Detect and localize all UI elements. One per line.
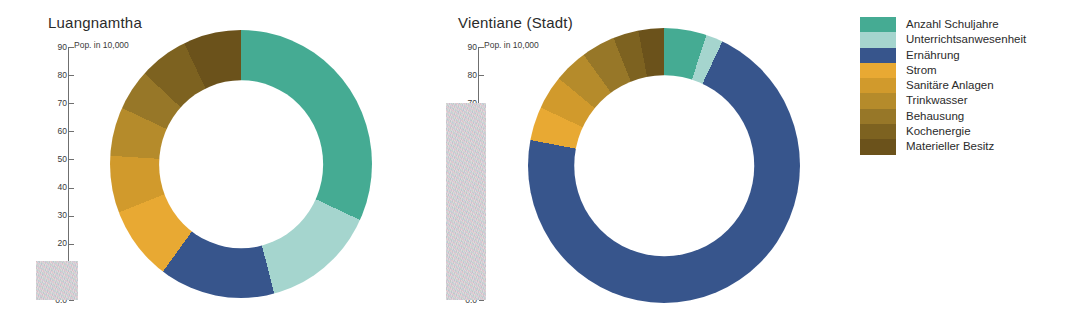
population-bar	[446, 103, 486, 300]
legend-swatch	[860, 32, 896, 47]
y-axis-tick-label: 90	[58, 42, 67, 52]
chart-title: Luangnamtha	[48, 14, 142, 31]
legend-swatch	[860, 124, 896, 139]
legend-swatch	[860, 63, 896, 78]
y-axis-unit-label: Pop. in 10,000	[484, 40, 539, 50]
y-axis-tick-label: 90	[468, 42, 477, 52]
legend-item-label: Behausung	[906, 109, 1026, 124]
legend-swatch	[860, 109, 896, 124]
y-axis-tick-label: 60	[58, 126, 67, 136]
legend-swatch	[860, 139, 896, 154]
y-axis-tick-mark	[69, 244, 74, 245]
legend-swatch	[860, 78, 896, 93]
donut-hole	[159, 80, 323, 248]
y-axis-tick-label: 30	[58, 210, 67, 220]
y-axis-unit-label: Pop. in 10,000	[74, 40, 129, 50]
chart-panel-vientiane: Vientiane (Stadt) Pop. in 10,000 9080706…	[430, 0, 760, 323]
legend-item-label: Unterrichtsanwesenheit	[906, 32, 1026, 47]
legend-item-label: Strom	[906, 63, 1026, 78]
legend-item-label: Trinkwasser	[906, 93, 1026, 108]
chart-title: Vientiane (Stadt)	[458, 14, 573, 31]
legend-item-label: Anzahl Schuljahre	[906, 17, 1026, 32]
legend-swatch	[860, 48, 896, 63]
y-axis-tick-label: 20	[58, 238, 67, 248]
y-axis-tick-mark	[69, 103, 74, 104]
legend-label-column: Anzahl SchuljahreUnterrichtsanwesenheitE…	[906, 17, 1026, 155]
legend-swatch	[860, 17, 896, 32]
donut-hole	[574, 75, 754, 257]
legend-swatch	[860, 93, 896, 108]
y-axis-tick-mark	[69, 216, 74, 217]
donut-chart-luangnamtha	[110, 30, 372, 298]
y-axis-tick-label: 80	[468, 70, 477, 80]
y-axis-tick-mark	[69, 159, 74, 160]
y-axis-tick-label: 80	[58, 70, 67, 80]
figure-canvas: Luangnamtha Pop. in 10,000 9080706050403…	[0, 0, 1068, 323]
population-bar	[36, 261, 78, 300]
y-axis-tick-mark	[479, 75, 484, 76]
y-axis-tick-label: 50	[58, 154, 67, 164]
y-axis-tick-mark	[479, 300, 484, 301]
legend-item-label: Materieller Besitz	[906, 139, 1026, 154]
y-axis-tick-label: 70	[58, 98, 67, 108]
donut-chart-vientiane	[528, 28, 800, 303]
y-axis-tick-mark	[69, 47, 74, 48]
y-axis-tick-mark	[479, 47, 484, 48]
y-axis-tick-mark	[69, 300, 74, 301]
y-axis-tick-label: 40	[58, 182, 67, 192]
y-axis-tick-mark	[69, 131, 74, 132]
chart-panel-luangnamtha: Luangnamtha Pop. in 10,000 9080706050403…	[0, 0, 430, 323]
y-axis-tick-mark	[69, 188, 74, 189]
legend-item-label: Kochenergie	[906, 124, 1026, 139]
legend-swatch-column	[860, 17, 896, 155]
legend-item-label: Ernährung	[906, 48, 1026, 63]
y-axis-tick-mark	[69, 75, 74, 76]
legend-item-label: Sanitäre Anlagen	[906, 78, 1026, 93]
